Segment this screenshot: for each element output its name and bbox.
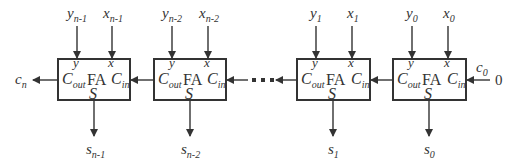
port-y: y (312, 56, 318, 69)
port-s: S (424, 86, 432, 102)
input-label-y-0: y0 (406, 6, 418, 24)
port-x: x (444, 56, 450, 69)
output-label-s-n-1: sn-1 (86, 142, 105, 160)
input-label-x-n-2: xn-2 (199, 6, 219, 24)
output-label-s-n-2: sn-2 (181, 142, 200, 160)
carry-out-label: cn (15, 72, 27, 90)
port-x: x (108, 56, 114, 69)
port-cin: Cin (447, 71, 465, 90)
port-s: S (89, 86, 97, 102)
port-x: x (348, 56, 354, 69)
input-label-x-n-1: xn-1 (103, 6, 123, 24)
port-y: y (169, 56, 175, 69)
port-y: y (73, 56, 79, 69)
input-label-y-1: y1 (310, 6, 322, 24)
port-cout: Cout (62, 71, 85, 90)
port-s: S (185, 86, 193, 102)
port-cin: Cin (207, 71, 225, 90)
port-x: x (204, 56, 210, 69)
output-label-s-0: s0 (424, 142, 435, 160)
input-label-x-1: x1 (347, 6, 359, 24)
input-label-y-n-1: yn-1 (67, 6, 87, 24)
port-cin: Cin (111, 71, 129, 90)
port-y: y (408, 56, 414, 69)
port-cout: Cout (301, 71, 324, 90)
sum-output-arrows (94, 100, 429, 136)
input-label-y-n-2: yn-2 (162, 6, 182, 24)
port-cout: Cout (158, 71, 181, 90)
input-label-x-0: x0 (443, 6, 455, 24)
port-cout: Cout (397, 71, 420, 90)
input-arrows (77, 26, 448, 58)
output-label-s-1: s1 (328, 142, 339, 160)
ellipsis-dots (252, 78, 274, 82)
port-cin: Cin (351, 71, 369, 90)
port-s: S (328, 86, 336, 102)
carry-in-value: 0 (495, 73, 503, 88)
carry-in-label: c0 (476, 60, 488, 78)
ripple-carry-adder-diagram: yn-1 xn-1 y x Cout FA Cin S sn-1 yn-2 xn… (0, 0, 519, 167)
